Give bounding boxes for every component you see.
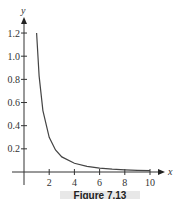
y-tick-label: 0.6 [8, 97, 21, 108]
x-tick-label: 6 [97, 177, 102, 188]
x-axis-arrow-icon [158, 169, 165, 175]
axes [12, 22, 158, 185]
y-tick-label: 1.2 [8, 28, 21, 39]
x-tick-label: 4 [72, 177, 77, 188]
figure-caption: Figure 7.13 [60, 191, 140, 199]
data-curve [37, 33, 150, 171]
x-tick-label: 8 [122, 177, 127, 188]
y-tick-label: 0.2 [8, 143, 21, 154]
y-tick-label: 1.0 [8, 51, 21, 62]
x-tick-label: 2 [47, 177, 52, 188]
chart: x y 246810 0.20.40.60.81.01.2 [0, 0, 184, 199]
y-axis-arrow-icon [21, 17, 27, 24]
y-tick-label: 0.4 [8, 120, 21, 131]
x-tick-label: 10 [145, 177, 155, 188]
y-axis-label: y [20, 5, 26, 16]
y-tick-label: 0.8 [8, 74, 21, 85]
x-axis-label: x [167, 166, 173, 177]
